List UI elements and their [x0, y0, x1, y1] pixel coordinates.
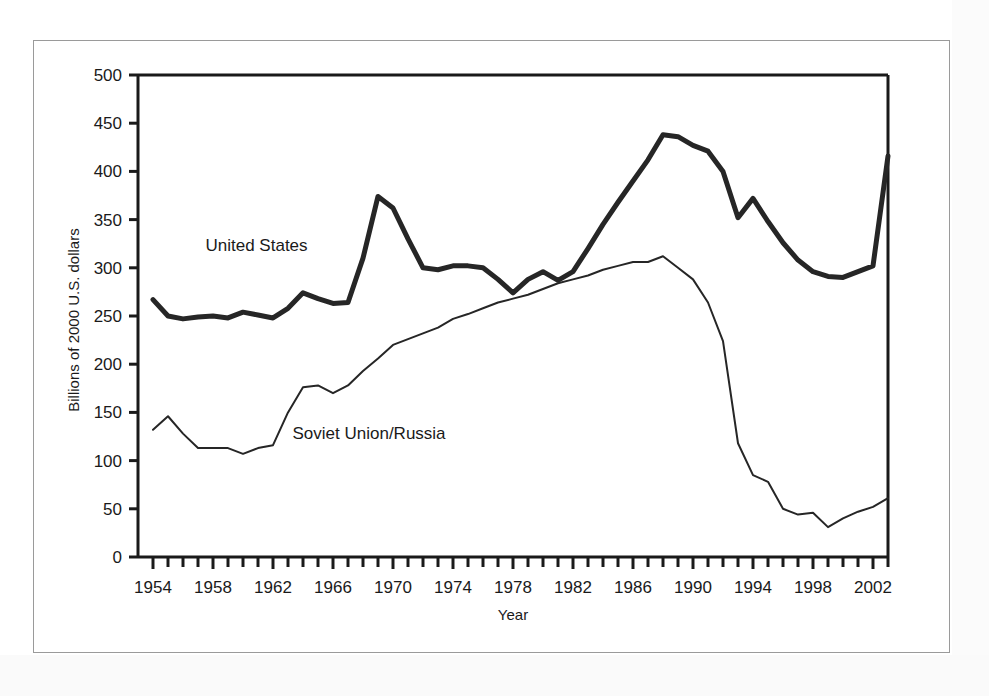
x-axis-title: Year [498, 606, 528, 623]
y-tick-label: 0 [113, 548, 122, 567]
x-tick-label: 1978 [494, 578, 532, 597]
y-tick-label: 100 [94, 452, 122, 471]
series-lines [153, 135, 888, 527]
y-tick-label: 50 [103, 500, 122, 519]
y-tick-label: 450 [94, 114, 122, 133]
y-tick-label: 200 [94, 355, 122, 374]
x-axis-ticks [153, 557, 888, 569]
series-label-2: Soviet Union/Russia [293, 424, 447, 443]
y-tick-label: 350 [94, 211, 122, 230]
y-tick-label: 400 [94, 162, 122, 181]
x-tick-label: 1994 [734, 578, 772, 597]
x-tick-label: 1954 [134, 578, 172, 597]
y-tick-label: 500 [94, 66, 122, 85]
x-tick-label: 1958 [194, 578, 232, 597]
x-tick-label: 1966 [314, 578, 352, 597]
y-axis-tick-labels: 050100150200250300350400450500 [94, 66, 122, 567]
x-axis-tick-labels: 1954195819621966197019741978198219861990… [134, 578, 892, 597]
x-tick-label: 1974 [434, 578, 472, 597]
x-tick-label: 2002 [854, 578, 892, 597]
series-label-1: United States [206, 236, 308, 255]
series-annotations: United StatesSoviet Union/Russia [206, 236, 447, 443]
x-tick-label: 1970 [374, 578, 412, 597]
x-tick-label: 1982 [554, 578, 592, 597]
series-line-2 [153, 256, 888, 527]
y-axis-title: Billions of 2000 U.S. dollars [65, 228, 82, 411]
chart-container: 050100150200250300350400450500 195419581… [0, 0, 989, 696]
y-tick-label: 250 [94, 307, 122, 326]
x-tick-label: 1962 [254, 578, 292, 597]
figure-page: 050100150200250300350400450500 195419581… [0, 0, 989, 696]
series-line-1 [153, 135, 888, 319]
y-tick-label: 300 [94, 259, 122, 278]
x-tick-label: 1986 [614, 578, 652, 597]
y-tick-label: 150 [94, 403, 122, 422]
x-tick-label: 1998 [794, 578, 832, 597]
line-chart: 050100150200250300350400450500 195419581… [0, 0, 989, 696]
x-tick-label: 1990 [674, 578, 712, 597]
